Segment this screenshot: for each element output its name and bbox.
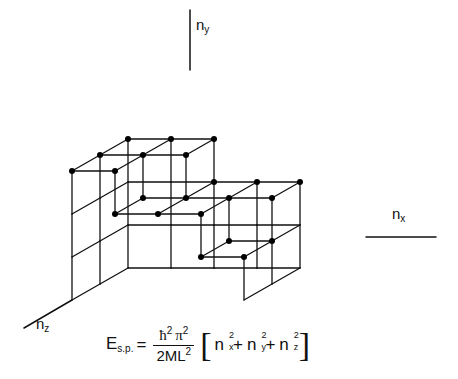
term-ny: n22y <box>247 336 261 353</box>
hbar-symbol: ħ <box>159 327 167 343</box>
term-nz-exponent: 2 <box>294 331 299 340</box>
formula-lhs-base: E <box>106 334 117 353</box>
formula-lhs: Es.p. <box>106 335 133 354</box>
axis-label-nx: nx <box>392 205 405 224</box>
term-nz-sub: z <box>294 343 299 352</box>
axis-label-nz-sub: z <box>44 323 49 334</box>
plus-1: + <box>233 336 243 353</box>
term-nz: n22z <box>279 336 293 353</box>
term-nx: n22x <box>214 336 228 353</box>
axis-lines <box>24 10 436 328</box>
axis-label-ny-sub: y <box>204 24 209 35</box>
bracket-open: [ <box>200 331 211 358</box>
term-nx-base: n <box>214 335 223 354</box>
plus-2: + <box>265 336 275 353</box>
pi-exponent: 2 <box>183 325 189 336</box>
axis-label-nx-sub: x <box>400 213 405 224</box>
term-ny-exponent: 2 <box>261 331 266 340</box>
cube-lattice-diagram <box>0 0 458 379</box>
formula-lhs-sub: s.p. <box>117 343 133 354</box>
bracket-close: ] <box>299 331 310 358</box>
term-nz-base: n <box>279 335 288 354</box>
term-ny-sub: y <box>261 343 266 352</box>
formula-denominator: 2ML2 <box>153 345 194 364</box>
cube-lattice <box>72 139 300 300</box>
denominator-text: 2ML <box>156 347 185 364</box>
axis-label-ny: ny <box>196 16 209 35</box>
denominator-exponent: 2 <box>186 346 192 357</box>
energy-formula: Es.p. = ħ2π2 2ML2 [ n22x + n22y + n22z ] <box>106 326 356 374</box>
term-ny-base: n <box>247 335 256 354</box>
term-nx-exponent: 2 <box>229 331 234 340</box>
axis-label-nz: nz <box>36 315 49 334</box>
figure-canvas: ny nx nz Es.p. = ħ2π2 2ML2 [ n22x + n22y… <box>0 0 458 379</box>
term-nx-sub: x <box>229 343 234 352</box>
hbar-exponent: 2 <box>167 325 173 336</box>
formula-equals: = <box>136 336 146 353</box>
formula-fraction: ħ2π2 2ML2 <box>153 326 194 364</box>
pi-symbol: π <box>175 327 183 343</box>
formula-numerator: ħ2π2 <box>156 326 191 345</box>
